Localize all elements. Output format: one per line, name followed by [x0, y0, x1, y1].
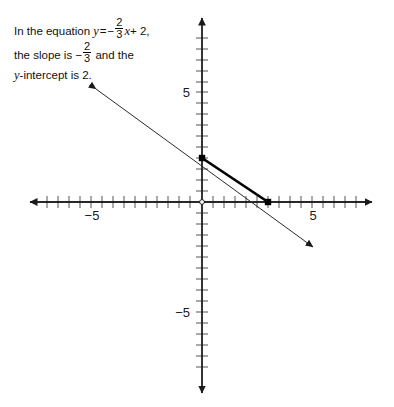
origin-marker — [200, 200, 205, 205]
y-axis-label-pos5: 5 — [183, 85, 190, 100]
slope-segment — [202, 158, 268, 202]
graph-page: In the equation y=−23x+ 2, the slope is … — [0, 0, 394, 407]
x-axis-label-neg5: −5 — [85, 208, 100, 223]
y-axis-label-neg5: −5 — [175, 305, 190, 320]
x-intercept-point — [265, 199, 271, 205]
graph-svg: −5 5 5 −5 — [0, 0, 394, 407]
y-intercept-point — [199, 155, 205, 161]
x-axis-label-pos5: 5 — [309, 208, 316, 223]
plotted-line — [96, 89, 313, 247]
coordinate-plane: −5 5 5 −5 — [0, 0, 394, 407]
